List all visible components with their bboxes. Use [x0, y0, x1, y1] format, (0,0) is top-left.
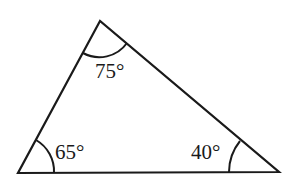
angle-arc-bottom-left	[36, 140, 54, 173]
angle-arc-top	[83, 43, 127, 57]
angle-label-top: 75°	[95, 61, 124, 82]
angle-label-bottom-right: 40°	[191, 142, 220, 163]
angle-arc-bottom-right	[229, 141, 240, 172]
angle-label-bottom-left: 65°	[55, 142, 84, 163]
triangle-diagram: 75° 65° 40°	[0, 0, 290, 183]
triangle-figure	[0, 0, 290, 183]
